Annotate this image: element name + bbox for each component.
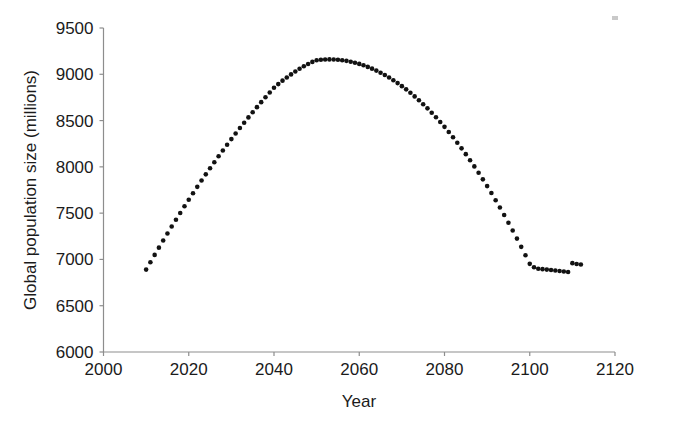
data-point [289,72,294,77]
data-point [229,137,234,142]
data-point [412,94,417,99]
data-point [536,266,541,271]
data-point [553,268,558,273]
data-point [361,63,366,68]
y-axis-title: Global population size (millions) [21,70,40,310]
y-tick-label: 9000 [56,65,94,84]
data-point [152,253,157,258]
data-point [357,62,362,67]
x-tick-label: 2060 [340,360,378,379]
data-point [161,238,166,243]
data-point [506,220,511,225]
data-point [498,205,503,210]
data-point [383,73,388,78]
y-axis-tick-labels: 60006500700075008000850090009500 [56,19,94,362]
data-point [293,69,298,74]
data-point [464,152,469,157]
data-point [344,59,349,64]
data-point [353,60,358,65]
x-tick-label: 2020 [170,360,208,379]
data-point [421,102,426,107]
data-point [493,198,498,203]
x-tick-label: 2080 [426,360,464,379]
data-point [276,82,281,87]
data-point [263,95,268,100]
data-point [451,135,456,140]
x-tick-label: 2120 [596,360,634,379]
data-point [434,115,439,120]
data-point [314,58,319,63]
data-point [259,100,264,105]
data-point [272,85,277,90]
data-point [199,178,204,183]
data-point [182,204,187,209]
data-point [545,267,550,272]
data-point [400,84,405,89]
data-point [280,78,285,83]
data-point [204,172,209,177]
data-point [485,184,490,189]
data-point [378,70,383,75]
data-point [468,158,473,163]
data-point [442,125,447,130]
data-point-group [144,57,583,274]
data-point [370,66,375,71]
chart-figure: 60006500700075008000850090009500 2000202… [0,0,677,430]
data-point [502,213,507,218]
data-point [404,87,409,92]
data-point [297,67,302,72]
data-point [519,245,524,250]
x-axis-title: Year [342,392,377,411]
data-point [340,58,345,63]
data-point [246,115,251,120]
data-point [284,75,289,80]
data-point [186,197,191,202]
data-point [212,160,217,165]
x-tick-label: 2000 [85,360,123,379]
data-point [165,231,170,236]
data-point [523,253,528,258]
data-point [174,217,179,222]
data-point [532,265,537,270]
data-point [391,78,396,83]
data-point [255,105,260,110]
data-point [148,260,153,265]
data-point [238,126,243,131]
data-point [225,142,230,147]
data-point [169,224,174,229]
y-tick-label: 9500 [56,19,94,38]
data-point [425,106,430,111]
x-axis-tick-labels: 2000202020402060208021002120 [85,360,634,379]
y-tick-label: 8500 [56,112,94,131]
data-point [574,262,579,267]
data-point [459,146,464,151]
data-point [489,191,494,196]
data-point [144,267,149,272]
data-point [557,269,562,274]
data-point [250,110,255,115]
data-point [472,164,477,169]
data-point [302,64,307,69]
data-point [527,262,532,267]
data-point [476,170,481,175]
y-tick-label: 7500 [56,204,94,223]
data-point [221,148,226,153]
x-tick-label: 2040 [255,360,293,379]
scan-artifact [612,16,618,20]
population-projection-chart: 60006500700075008000850090009500 2000202… [0,0,677,430]
data-point [323,57,328,62]
data-point [417,98,422,103]
data-point [216,154,221,159]
data-point [191,191,196,196]
data-point [365,65,370,70]
data-point [233,131,238,136]
data-point [455,140,460,145]
data-point [195,185,200,190]
data-point [562,269,567,274]
data-point [208,166,213,171]
data-point [178,211,183,216]
data-point [446,130,451,135]
data-point [408,91,413,96]
data-point [267,90,272,95]
data-point [515,236,520,241]
